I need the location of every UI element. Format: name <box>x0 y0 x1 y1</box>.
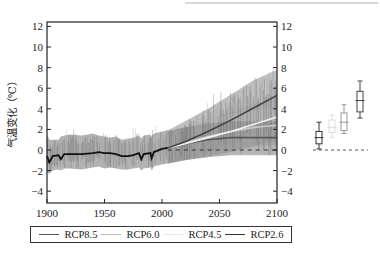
legend-swatch-rcp45 <box>163 234 183 235</box>
legend-label-rcp85: RCP8.5 <box>65 229 98 240</box>
y-right-tick-label: 4 <box>281 103 287 115</box>
y-right-tick-label: 0 <box>281 144 287 156</box>
temperature-change-chart: −4−2024681012 −4−2024681012 190019502000… <box>0 0 380 260</box>
y-tick-label: 6 <box>38 82 44 94</box>
y-tick-label: −2 <box>31 165 43 177</box>
y-tick-label: 12 <box>32 20 43 32</box>
y-axis-right: −4−2024681012 <box>273 20 293 197</box>
y-tick-label: 10 <box>32 41 44 53</box>
legend-label-rcp26: RCP2.6 <box>251 229 284 240</box>
y-axis-left: −4−2024681012 <box>31 20 51 197</box>
legend-label-rcp60: RCP6.0 <box>127 229 160 240</box>
boxplot-rcp85 <box>356 81 365 118</box>
boxplot-panel-2100 <box>313 81 368 150</box>
chart-legend: RCP8.5 RCP6.0 RCP4.5 RCP2.6 <box>30 226 292 243</box>
legend-item-rcp85: RCP8.5 <box>39 229 98 240</box>
x-tick-label: 2050 <box>209 207 232 219</box>
legend-item-rcp45: RCP4.5 <box>163 229 222 240</box>
y-right-tick-label: 2 <box>281 123 287 135</box>
y-right-tick-label: 8 <box>281 62 287 74</box>
y-right-tick-label: −2 <box>281 165 293 177</box>
y-right-tick-label: 12 <box>281 20 292 32</box>
x-tick-label: 2100 <box>266 207 289 219</box>
boxplot-rcp60 <box>340 105 349 134</box>
y-tick-label: 4 <box>38 103 44 115</box>
y-axis-label: 气温变化（℃） <box>6 76 18 148</box>
legend-swatch-rcp85 <box>39 234 59 235</box>
legend-swatch-rcp26 <box>225 234 245 235</box>
x-tick-label: 2000 <box>151 207 174 219</box>
y-tick-label: 8 <box>38 62 44 74</box>
legend-item-rcp26: RCP2.6 <box>225 229 284 240</box>
boxplot-rcp26 <box>315 122 324 149</box>
y-right-tick-label: −4 <box>281 185 293 197</box>
y-right-tick-label: 6 <box>281 82 287 94</box>
y-tick-label: 2 <box>38 123 44 135</box>
legend-item-rcp60: RCP6.0 <box>101 229 160 240</box>
y-tick-label: −4 <box>31 185 43 197</box>
y-right-tick-label: 10 <box>281 41 293 53</box>
boxplot-rcp45 <box>328 115 337 138</box>
x-axis: 19001950200020502100 <box>36 199 289 219</box>
x-tick-label: 1900 <box>36 207 59 219</box>
y-tick-label: 0 <box>38 144 44 156</box>
legend-label-rcp45: RCP4.5 <box>189 229 222 240</box>
legend-swatch-rcp60 <box>101 234 121 235</box>
x-tick-label: 1950 <box>94 207 117 219</box>
